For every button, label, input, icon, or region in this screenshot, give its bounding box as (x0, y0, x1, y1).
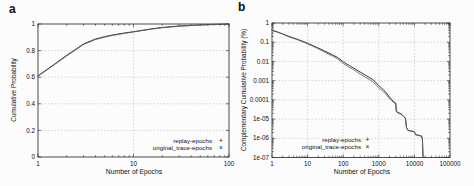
x-tick-label: 1000 (372, 160, 387, 167)
y-tick-label: 0.2 (26, 127, 35, 134)
y-tick-label: 0.6 (26, 73, 35, 80)
y-tick-label: 0.4 (26, 100, 35, 107)
panel-b-x-axis-title: Number of Epochs (334, 168, 390, 175)
panel-b-legend: replay-epochs + original_trace-epochs × (302, 137, 374, 150)
y-tick-label: 0.01 (257, 58, 270, 65)
x-tick-label: 100000 (439, 160, 461, 167)
x-tick-label: 10 (130, 160, 138, 167)
y-tick-label: 1 (31, 20, 35, 27)
y-tick-label: 0.001 (253, 77, 269, 84)
y-tick-label: 0.1 (260, 38, 269, 45)
cross-marker-icon: × (361, 144, 374, 151)
y-tick-label: 1e-06 (253, 134, 270, 141)
y-tick-label: 1e-07 (253, 154, 270, 161)
y-tick-label: 1 (265, 19, 269, 26)
x-tick-label: 10 (304, 160, 312, 167)
legend-row-original-trace-epochs: original_trace-epochs × (302, 144, 374, 151)
y-tick-label: 0.0001 (250, 96, 270, 103)
legend-label-original-trace-epochs: original_trace-epochs (153, 145, 212, 152)
y-tick-label: 0.8 (26, 47, 35, 54)
x-tick-label: 1 (270, 160, 274, 167)
figure-two-panel-chart: a b Cumulative Probability Complementary… (0, 0, 474, 186)
legend-row-original-trace-epochs: original_trace-epochs × (153, 145, 230, 152)
y-tick-label: 1e-05 (253, 115, 270, 122)
panel-a-x-axis-title: Number of Epochs (106, 168, 162, 175)
cross-marker-icon: × (212, 145, 230, 152)
x-tick-label: 1 (36, 160, 40, 167)
y-tick-label: 0 (31, 153, 35, 160)
panel-a-plot-canvas: 11010000.20.40.60.81 (0, 0, 237, 186)
panel-a-legend: replay-epochs + original_trace-epochs × (153, 138, 230, 151)
x-tick-label: 100 (338, 160, 349, 167)
legend-label-original-trace-epochs: original_trace-epochs (302, 144, 361, 151)
panel-b-plot-canvas: 11010010001000010000010.10.010.0010.0001… (237, 0, 474, 186)
x-tick-label: 100 (224, 160, 235, 167)
x-tick-label: 10000 (406, 160, 424, 167)
